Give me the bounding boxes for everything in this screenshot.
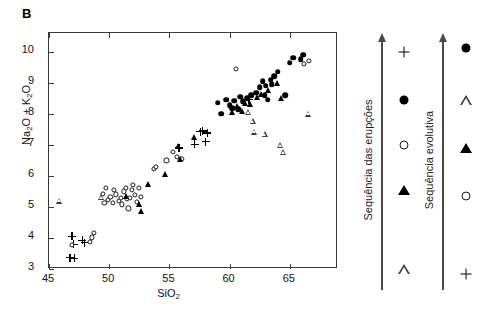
x-axis-title-text: SiO2 [157,287,180,299]
data-point-open-circle [92,231,97,236]
y-tick-label: 4 [10,229,34,241]
legend-title: Sequência das erupções [362,60,374,260]
data-point-open-circle [123,185,128,190]
legend-title: Sequência evolutiva [423,60,435,260]
data-point-filled-circle [282,92,288,98]
data-point-filled-circle [215,100,221,106]
legend-symbol-open-circle-icon [400,141,409,150]
data-point-plus [70,254,78,262]
data-point-open-circle [104,186,109,191]
x-tick-label: 45 [28,272,68,284]
data-point-open-circle [113,192,118,197]
x-tick [290,264,291,269]
data-point-open-triangle [262,131,268,137]
legend-sequencia-evolutiva: Sequência evolutiva [0,0,12,310]
data-point-filled-circle [275,69,281,75]
data-point-filled-triangle [162,171,168,177]
data-point-filled-circle [269,81,275,87]
data-point-plus [191,140,199,148]
data-point-open-triangle [280,149,286,155]
data-point-open-circle [126,206,131,211]
data-point-filled-circle [300,52,306,58]
data-point-plus [203,129,211,137]
data-point-open-circle [119,202,124,207]
y-axis-title: Na2O + K2O [20,40,34,190]
y-tick [49,52,54,53]
data-point-open-triangle [56,198,62,204]
data-point-filled-circle [232,98,238,104]
data-point-filled-circle [291,55,297,61]
data-point-filled-triangle [175,143,181,149]
data-point-filled-triangle [191,134,197,140]
data-point-open-circle [307,58,312,63]
data-point-open-triangle [251,129,257,135]
data-point-open-triangle [277,142,283,148]
y-tick [49,114,54,115]
x-axis-title: SiO2 [0,287,337,301]
figure-panel: B 4550556065345678910 SiO2 Na2O + K2O Se… [0,0,493,310]
data-point-filled-triangle [145,181,151,187]
legend-symbol-open-triangle-icon [398,264,410,274]
data-points-layer [49,33,336,267]
data-point-filled-circle [218,111,224,117]
y-tick [49,83,54,84]
y-tick-label: 3 [10,260,34,272]
legend-symbol-open-triangle-icon [460,95,472,105]
data-point-open-circle [87,239,92,244]
legend-arrow-shaft [442,41,443,290]
panel-label: B [22,6,32,21]
x-tick [109,33,110,38]
x-tick [230,33,231,38]
x-tick [169,33,170,38]
data-point-open-circle [154,164,159,169]
y-tick [49,145,54,146]
y-tick [49,176,54,177]
x-tick [169,264,170,269]
y-tick-label: 5 [10,198,34,210]
data-point-open-triangle [250,118,256,124]
y-tick [49,269,54,270]
legend-symbol-filled-circle-icon [400,96,409,105]
x-tick-label: 50 [88,272,128,284]
data-point-open-circle [136,185,141,190]
x-tick [109,264,110,269]
data-point-filled-circle [265,97,271,103]
data-point-open-triangle [245,109,251,115]
legend-symbol-plus-icon [461,269,472,280]
data-point-filled-triangle [123,193,129,199]
legend-symbol-filled-triangle-icon [398,185,410,195]
legend-symbol-plus-icon [399,47,410,58]
data-point-filled-triangle [136,201,142,207]
legend-symbol-filled-circle-icon [462,44,471,53]
data-point-filled-circle [229,105,235,111]
y-tick [49,238,54,239]
x-tick [49,33,50,38]
x-tick [290,33,291,38]
data-point-filled-circle [263,83,269,89]
data-point-filled-triangle [138,208,144,214]
x-tick [230,264,231,269]
data-point-filled-triangle [177,156,183,162]
data-point-filled-triangle [247,101,253,107]
data-point-open-triangle [98,194,104,200]
scatter-plot-area [48,32,337,268]
y-axis-title-text: Na2O + K2O [20,85,32,145]
data-point-open-circle [132,192,137,197]
data-point-open-circle [108,194,113,199]
legend-symbol-open-circle-icon [462,192,471,201]
data-point-open-triangle [305,111,311,117]
legend-arrow-shaft [381,41,382,290]
legend-symbol-filled-triangle-icon [460,143,472,153]
data-point-filled-circle [235,106,241,112]
data-point-plus [202,138,210,146]
x-tick-label: 65 [269,272,309,284]
data-point-open-circle [110,201,115,206]
data-point-open-circle [131,182,136,187]
data-point-open-circle [164,158,169,163]
x-tick-label: 55 [148,272,188,284]
data-point-open-circle [233,66,238,71]
data-point-open-circle [138,194,143,199]
data-point-filled-circle [253,90,259,96]
y-tick [49,207,54,208]
x-tick-label: 60 [209,272,249,284]
